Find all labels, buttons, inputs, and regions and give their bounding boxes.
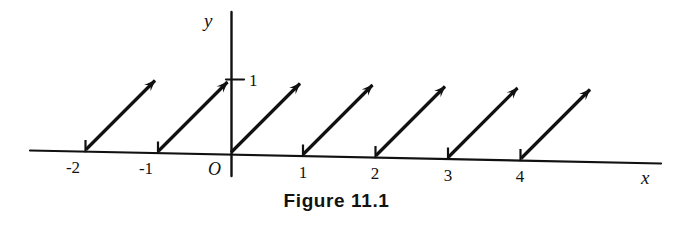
field-arrow-at-x-4 bbox=[521, 90, 590, 159]
x-tick-label-3: 3 bbox=[444, 166, 453, 185]
x-tick-label-minus-1: -1 bbox=[139, 159, 153, 178]
field-arrow-at-x-2 bbox=[376, 87, 445, 156]
y-unit-label: 1 bbox=[249, 71, 258, 90]
arrow-group bbox=[86, 81, 590, 159]
figure-caption: Figure 11.1 bbox=[0, 190, 673, 212]
x-axis-line bbox=[30, 151, 661, 164]
figure-container: y x O 1 -2 -1 1 2 3 4 Figure 11.1 bbox=[0, 0, 673, 228]
field-arrow-at-x-3 bbox=[449, 88, 518, 157]
field-arrow-at-x-minus-2 bbox=[86, 81, 155, 150]
field-arrow-at-x-1 bbox=[304, 85, 373, 154]
x-tick-label-1: 1 bbox=[299, 163, 308, 182]
field-arrow-at-x-0 bbox=[231, 84, 300, 153]
y-axis-label: y bbox=[202, 10, 213, 31]
x-axis-label: x bbox=[640, 167, 650, 188]
x-tick-label-2: 2 bbox=[371, 164, 380, 183]
origin-label: O bbox=[208, 159, 221, 179]
x-tick-label-minus-2: -2 bbox=[66, 158, 80, 177]
field-arrow-at-x-minus-1 bbox=[159, 82, 228, 151]
x-tick-label-4: 4 bbox=[516, 167, 525, 186]
